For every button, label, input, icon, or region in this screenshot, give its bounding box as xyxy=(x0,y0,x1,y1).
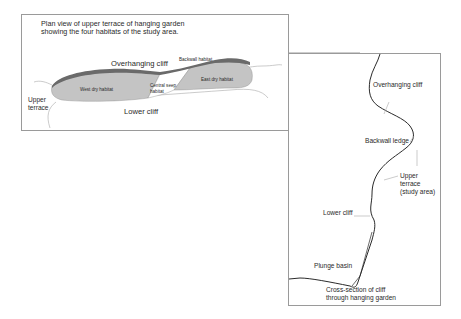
plan-upper-terrace-label-line2: terrace xyxy=(28,104,49,112)
plan-overhanging-cliff-label: Overhanging cliff xyxy=(111,60,168,69)
plan-backwall-habitat-label: Backwall habitat xyxy=(179,57,212,62)
xs-overhanging-cliff-label: Overhanging cliff xyxy=(373,81,422,89)
plan-lower-cliff-label: Lower cliff xyxy=(124,108,158,117)
xs-lower-cliff-label: Lower cliff xyxy=(323,209,353,217)
plan-east-dry-habitat-label: East dry habitat xyxy=(201,77,233,82)
xs-upper-terrace-label-line3: (study area) xyxy=(400,188,435,196)
plan-central-seep-label-line1: Central seep xyxy=(150,83,176,88)
xs-caption-line2: through hanging garden xyxy=(326,294,396,302)
xs-upper-terrace-label-line2: terrace xyxy=(400,180,421,188)
xs-backwall-ledge-label: Backwall ledge xyxy=(365,137,409,145)
diagram-canvas xyxy=(0,0,461,319)
xs-upper-terrace-label-line1: Upper xyxy=(400,172,418,180)
plan-west-dry-habitat-label: West dry habitat xyxy=(80,87,113,92)
plan-central-seep-label-line2: habitat xyxy=(150,89,164,94)
plan-upper-terrace-label-line1: Upper xyxy=(28,96,46,104)
plan-view-title-line2: showing the four habitats of the study a… xyxy=(41,28,178,36)
xs-plunge-basin-label: Plunge basin xyxy=(314,262,352,270)
xs-caption-line1: Cross-section of cliff xyxy=(326,286,385,294)
